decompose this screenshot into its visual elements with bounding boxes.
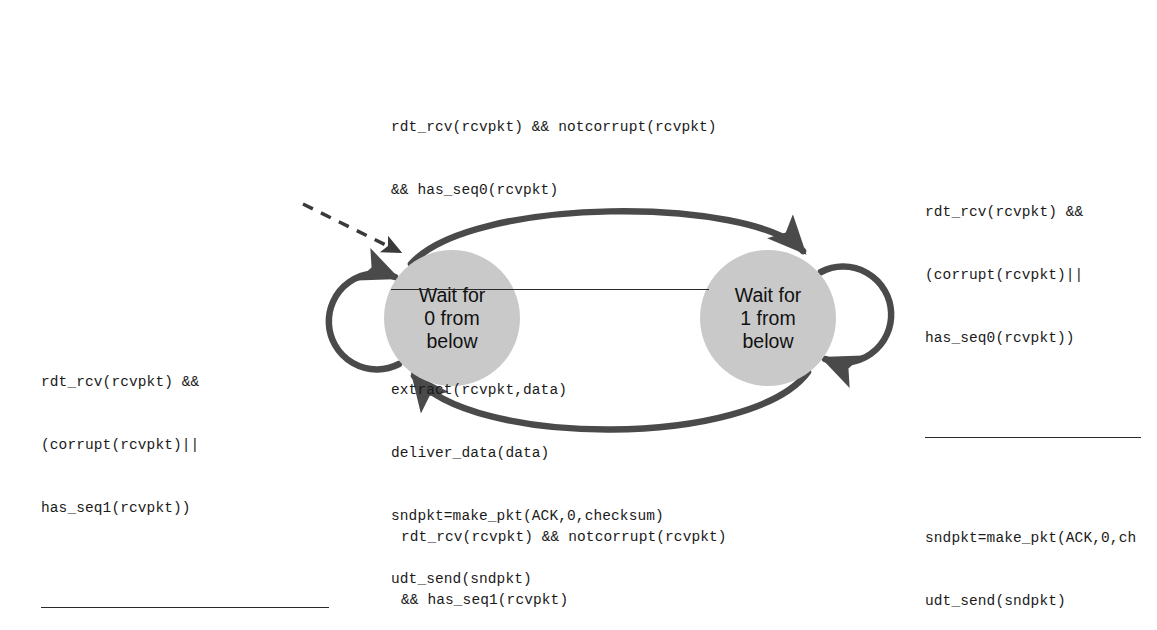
state-circle-wait-for-1-from-below[interactable] xyxy=(700,250,836,386)
transition-condition-bottom: rdt_rcv(rcvpkt) && notcorrupt(rcvpkt) &&… xyxy=(401,485,727,630)
transition-label-left-self-loop: rdt_rcv(rcvpkt) && (corrupt(rcvpkt)|| ha… xyxy=(41,288,329,630)
label-divider xyxy=(925,437,1141,438)
action-line: sndpkt=make_pkt(ACK,0,ch xyxy=(925,528,1141,549)
transition-label-right-self-loop: rdt_rcv(rcvpkt) && (corrupt(rcvpkt)|| ha… xyxy=(925,118,1141,630)
condition-line: rdt_rcv(rcvpkt) && xyxy=(41,372,329,393)
transition-label-bottom: rdt_rcv(rcvpkt) && notcorrupt(rcvpkt) &&… xyxy=(401,443,727,630)
label-divider xyxy=(391,289,709,290)
initial-state-dashed-arrow xyxy=(303,204,398,251)
condition-line: has_seq0(rcvpkt)) xyxy=(925,328,1141,349)
condition-line: (corrupt(rcvpkt)|| xyxy=(925,265,1141,286)
transition-condition-right: rdt_rcv(rcvpkt) && (corrupt(rcvpkt)|| ha… xyxy=(925,160,1141,391)
transition-condition-top: rdt_rcv(rcvpkt) && notcorrupt(rcvpkt) &&… xyxy=(391,75,717,243)
transition-action-right: sndpkt=make_pkt(ACK,0,ch udt_send(sndpkt… xyxy=(925,486,1141,630)
action-line: extract(rcvpkt,data) xyxy=(391,380,717,401)
condition-line: && has_seq0(rcvpkt) xyxy=(391,180,717,201)
condition-line: rdt_rcv(rcvpkt) && notcorrupt(rcvpkt) xyxy=(401,527,727,548)
transition-condition-left: rdt_rcv(rcvpkt) && (corrupt(rcvpkt)|| ha… xyxy=(41,330,329,561)
condition-line: rdt_rcv(rcvpkt) && xyxy=(925,202,1141,223)
condition-line: has_seq1(rcvpkt)) xyxy=(41,498,329,519)
label-divider xyxy=(41,607,329,608)
action-line: udt_send(sndpkt) xyxy=(925,591,1141,612)
condition-line: && has_seq1(rcvpkt) xyxy=(401,590,727,611)
condition-line: rdt_rcv(rcvpkt) && notcorrupt(rcvpkt) xyxy=(391,117,717,138)
condition-line: (corrupt(rcvpkt)|| xyxy=(41,435,329,456)
